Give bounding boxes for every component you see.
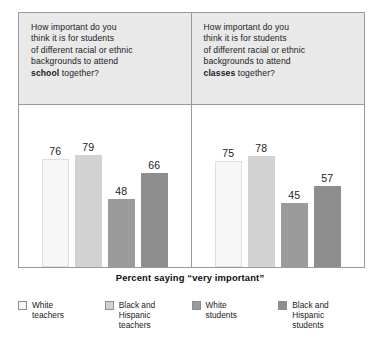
legend-swatch-icon: [192, 301, 201, 310]
bar-slot: 79: [75, 105, 102, 267]
question-line-keyword: classes together?: [204, 68, 355, 79]
legend-label: White students: [206, 300, 237, 320]
bar-value-label: 48: [115, 185, 127, 197]
question-line: backgrounds to attend: [204, 56, 355, 67]
legend-item-black-hispanic-students: Black and Hispanic students: [278, 300, 365, 331]
bar-value-label: 45: [288, 189, 300, 201]
question-line: think it is for students: [204, 33, 355, 44]
panel-question-school: How important do you think it is for stu…: [19, 13, 191, 105]
legend-label-line: White: [32, 300, 64, 310]
bar-slot: 76: [42, 105, 69, 267]
question-keyword: classes: [204, 68, 236, 78]
bar-black-hispanic-teachers: [248, 156, 275, 267]
bar-black-hispanic-teachers: [75, 155, 102, 267]
bar-slot: 78: [248, 105, 275, 267]
bar-value-label: 75: [222, 147, 234, 159]
legend-label-line: Black and: [292, 300, 328, 310]
question-tail: together?: [235, 68, 275, 78]
bar-slot: 66: [141, 105, 168, 267]
bar-slot: 57: [314, 105, 341, 267]
bar-white-teachers: [42, 159, 69, 267]
legend-swatch-icon: [105, 301, 114, 310]
chart-panel-school: How important do you think it is for stu…: [19, 13, 192, 267]
question-line: backgrounds to attend: [31, 56, 181, 67]
bar-value-label: 79: [82, 141, 94, 153]
question-line: How important do you: [204, 22, 355, 33]
legend-label-line: teachers: [32, 310, 64, 320]
bar-group-school: 76 79 48 66: [19, 105, 191, 267]
question-line-keyword: school together?: [31, 68, 181, 79]
legend-label: White teachers: [32, 300, 64, 320]
bar-slot: 48: [108, 105, 135, 267]
bar-group-classes: 75 78 45 57: [192, 105, 365, 267]
plot-area-classes: 75 78 45 57: [192, 105, 365, 267]
chart-frame: How important do you think it is for stu…: [18, 12, 365, 268]
bar-value-label: 76: [49, 145, 61, 157]
legend-label-line: White: [206, 300, 237, 310]
legend-label: Black and Hispanic teachers: [119, 300, 155, 331]
question-keyword: school: [31, 68, 59, 78]
legend-item-black-hispanic-teachers: Black and Hispanic teachers: [105, 300, 192, 331]
legend-item-white-teachers: White teachers: [18, 300, 105, 331]
question-line: of different racial or ethnic: [31, 45, 181, 56]
legend-label: Black and Hispanic students: [292, 300, 328, 331]
legend-label-line: Hispanic: [119, 310, 155, 320]
legend-swatch-icon: [278, 301, 287, 310]
bar-value-label: 66: [148, 159, 160, 171]
question-tail: together?: [59, 68, 99, 78]
bar-black-hispanic-students: [141, 173, 168, 267]
plot-area-school: 76 79 48 66: [19, 105, 191, 267]
legend-label-line: Hispanic: [292, 310, 328, 320]
chart-legend: White teachers Black and Hispanic teache…: [18, 300, 365, 331]
question-line: of different racial or ethnic: [204, 45, 355, 56]
legend-swatch-icon: [18, 301, 27, 310]
bar-slot: 75: [215, 105, 242, 267]
question-line: How important do you: [31, 22, 181, 33]
axis-caption: Percent saying “very important”: [0, 272, 380, 283]
legend-label-line: Black and: [119, 300, 155, 310]
chart-figure: How important do you think it is for stu…: [0, 0, 380, 355]
bar-white-teachers: [215, 161, 242, 267]
bar-value-label: 78: [255, 142, 267, 154]
panel-question-classes: How important do you think it is for stu…: [192, 13, 365, 105]
question-line: think it is for students: [31, 33, 181, 44]
bar-slot: 45: [281, 105, 308, 267]
legend-label-line: students: [292, 320, 328, 330]
chart-panel-classes: How important do you think it is for stu…: [192, 13, 365, 267]
bar-white-students: [281, 203, 308, 267]
bar-white-students: [108, 199, 135, 267]
legend-label-line: teachers: [119, 320, 155, 330]
legend-label-line: students: [206, 310, 237, 320]
legend-item-white-students: White students: [192, 300, 279, 331]
bar-black-hispanic-students: [314, 186, 341, 267]
bar-value-label: 57: [321, 172, 333, 184]
